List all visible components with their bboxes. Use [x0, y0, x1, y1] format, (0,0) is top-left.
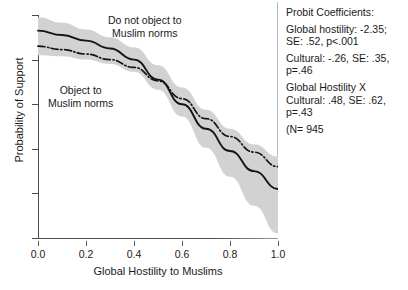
- y-tick-0.6: [32, 104, 38, 105]
- y-tick-0.2: [32, 193, 38, 194]
- annotation-do-not-object: Do not object to Muslim norms: [108, 14, 182, 39]
- annotation-object-line1: Object to: [48, 84, 113, 97]
- x-tick-0.0: [38, 241, 39, 246]
- annotation-object: Object to Muslim norms: [48, 84, 113, 109]
- x-tick-label-0.0: 0.0: [18, 249, 58, 259]
- y-tick-0.4: [32, 149, 38, 150]
- x-tick-0.2: [86, 241, 87, 246]
- y-axis-label: Probability of Support: [13, 35, 25, 185]
- x-tick-label-0.4: 0.4: [114, 249, 154, 259]
- plot-series-svg: [0, 0, 278, 290]
- figure-container: Probability of Support Global Hostility …: [0, 0, 408, 290]
- stats-line-1-1: p=.46: [286, 64, 406, 77]
- stats-block-3: (N= 945: [286, 123, 406, 136]
- y-tick-0.0: [32, 238, 38, 239]
- x-axis-label: Global Hostility to Muslims: [38, 265, 278, 277]
- plot-panel: Probability of Support Global Hostility …: [0, 0, 278, 290]
- stats-line-0-1: SE: .52, p<.001: [286, 35, 406, 48]
- annotation-do-not-object-line1: Do not object to: [108, 14, 182, 27]
- stats-panel: Probit Coefficients: Global hostility: -…: [286, 6, 406, 139]
- stats-line-1-0: Cultural: -.26, SE: .35,: [286, 52, 406, 65]
- confidence-band: [38, 17, 278, 233]
- x-tick-0.6: [182, 241, 183, 246]
- stats-heading: Probit Coefficients:: [286, 6, 406, 19]
- x-tick-0.8: [230, 241, 231, 246]
- x-tick-label-0.6: 0.6: [162, 249, 202, 259]
- stats-line-2-1: Cultural: .48, SE: .62,: [286, 94, 406, 107]
- y-tick-0.8: [32, 60, 38, 61]
- stats-block-0: Global hostility: -2.35;SE: .52, p<.001: [286, 23, 406, 48]
- stats-block-1: Cultural: -.26, SE: .35,p=.46: [286, 52, 406, 77]
- stats-line-2-0: Global Hostility X: [286, 81, 406, 94]
- y-tick-1.0: [32, 15, 38, 16]
- annotation-object-line2: Muslim norms: [48, 97, 113, 110]
- x-tick-label-0.8: 0.8: [210, 249, 250, 259]
- x-tick-0.4: [134, 241, 135, 246]
- stats-block-2: Global Hostility XCultural: .48, SE: .62…: [286, 81, 406, 119]
- stats-blocks: Global hostility: -2.35;SE: .52, p<.001C…: [286, 23, 406, 136]
- x-tick-label-0.2: 0.2: [66, 249, 106, 259]
- stats-line-3-0: (N= 945: [286, 123, 406, 136]
- x-tick-label-1.0: 1.0: [258, 249, 298, 259]
- x-tick-1.0: [278, 241, 279, 246]
- stats-line-2-2: p=.43: [286, 106, 406, 119]
- annotation-do-not-object-line2: Muslim norms: [108, 27, 182, 40]
- stats-line-0-0: Global hostility: -2.35;: [286, 23, 406, 36]
